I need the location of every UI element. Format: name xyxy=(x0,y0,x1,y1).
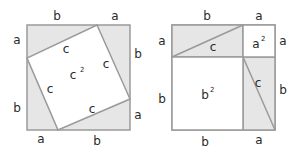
left-area-exponent: 2 xyxy=(80,66,84,74)
a-squared-base-label: a xyxy=(252,37,259,51)
left-inner-c-right-label: c xyxy=(103,57,110,71)
right-right-a-label: a xyxy=(279,34,286,48)
left-left-a-label: a xyxy=(13,33,20,47)
left-inner-c-bottom-label: c xyxy=(89,102,96,116)
left-inner-c-left-label: c xyxy=(47,82,54,96)
b-squared-exponent: 2 xyxy=(210,86,214,94)
left-left-b-label: b xyxy=(13,101,21,115)
left-right-b-label: b xyxy=(134,47,142,61)
left-top-a-label: a xyxy=(111,9,118,23)
right-left-b-label: b xyxy=(158,92,166,106)
left-bottom-b-label: b xyxy=(93,134,101,148)
left-area-c-label: c xyxy=(70,68,77,82)
left-right-a-label: a xyxy=(134,108,141,122)
left-figure: b a b a a b a b c c c c c 2 xyxy=(13,9,142,148)
right-top-c-label: c xyxy=(210,40,217,54)
a-squared-exponent: 2 xyxy=(261,35,265,43)
left-bottom-a-label: a xyxy=(37,132,44,146)
b-squared-base-label: b xyxy=(201,88,209,102)
right-bottom-a-label: a xyxy=(255,133,262,147)
right-figure: b a a b b a a b c c a 2 b 2 xyxy=(158,9,287,149)
right-bottom-b-label: b xyxy=(201,135,209,149)
pythagorean-proof-diagram: b a b a a b a b c c c c c 2 b a a b b a … xyxy=(0,0,297,154)
left-top-b-label: b xyxy=(53,9,61,23)
right-top-a-label: a xyxy=(255,9,262,23)
left-inner-c-top-label: c xyxy=(63,42,70,56)
right-left-a-label: a xyxy=(158,34,165,48)
right-top-b-label: b xyxy=(203,9,211,23)
right-right-b-label: b xyxy=(279,83,287,97)
right-side-c-label: c xyxy=(255,76,262,90)
